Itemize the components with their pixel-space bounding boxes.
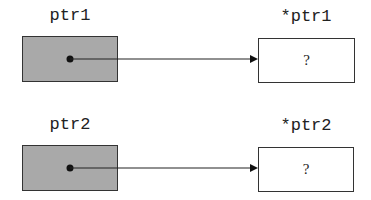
pointer-arrows [0,0,371,200]
arrow-ptr2 [67,164,259,172]
arrow-ptr1 [67,55,259,63]
